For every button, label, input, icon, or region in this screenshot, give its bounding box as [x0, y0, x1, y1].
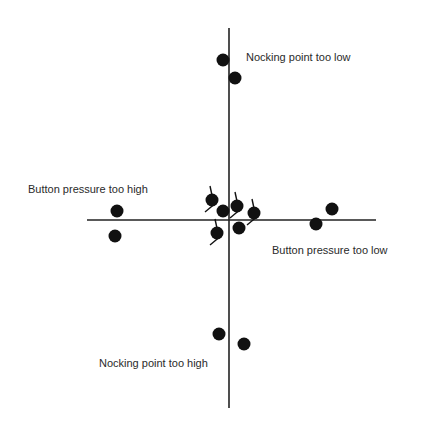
- arrow-impact-point: [233, 222, 246, 235]
- arrow-impact-point: [211, 227, 224, 240]
- arrow-impacts: [109, 54, 339, 351]
- label-nocking-too-high: Nocking point too high: [99, 357, 208, 369]
- label-nocking-too-low: Nocking point too low: [246, 51, 351, 63]
- arrow-impact-point: [310, 218, 323, 231]
- label-button-too-high: Button pressure too high: [28, 183, 148, 195]
- arrow-impact-point: [206, 194, 219, 207]
- arrow-group-diagram: [0, 0, 423, 427]
- arrow-impact-point: [111, 205, 124, 218]
- arrow-impact-point: [213, 328, 226, 341]
- label-button-too-low: Button pressure too low: [272, 244, 388, 256]
- arrow-impact-point: [248, 207, 261, 220]
- arrow-impact-point: [217, 205, 230, 218]
- arrow-impact-point: [231, 200, 244, 213]
- arrow-impact-point: [238, 338, 251, 351]
- arrow-impact-point: [109, 230, 122, 243]
- arrow-impact-point: [229, 72, 242, 85]
- arrow-impact-point: [326, 203, 339, 216]
- arrow-impact-point: [217, 54, 230, 67]
